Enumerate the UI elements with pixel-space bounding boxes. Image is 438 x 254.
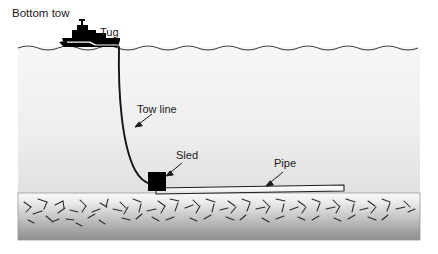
diagram-title: Bottom tow [12,8,70,20]
seabed [18,193,420,240]
diagram-canvas [0,0,438,254]
sled-label: Sled [176,150,198,161]
sled [148,172,166,191]
bottom-tow-diagram: Bottom tow Tug Tow line Sled Pipe [0,0,438,254]
tow-line-label: Tow line [137,104,177,115]
tug-label: Tug [100,27,119,38]
pipe-label: Pipe [274,158,296,169]
water-column [18,47,420,194]
